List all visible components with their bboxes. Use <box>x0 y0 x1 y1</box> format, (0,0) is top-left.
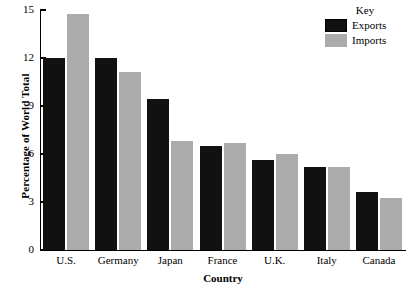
bar-exports-us <box>43 58 65 250</box>
x-axis-tick-label: Canada <box>353 254 405 267</box>
legend: Key ExportsImports <box>325 4 411 47</box>
legend-swatch-exports <box>325 19 347 32</box>
bar-imports-canada <box>380 198 402 250</box>
bar-exports-germany <box>95 58 117 250</box>
bar-exports-italy <box>304 167 326 250</box>
bar-imports-italy <box>328 167 350 250</box>
bar-imports-japan <box>171 141 193 250</box>
y-axis-tick-label: 12 <box>6 52 34 63</box>
bar-exports-france <box>200 146 222 250</box>
legend-label: Exports <box>352 19 386 32</box>
bar-imports-us <box>67 14 89 250</box>
y-axis-tick-label: 6 <box>6 148 34 159</box>
y-axis-tick-label: 0 <box>6 244 34 255</box>
y-axis-tick-label: 15 <box>6 4 34 15</box>
x-axis-tick-label: U.S. <box>40 254 92 267</box>
x-axis-title: Country <box>40 272 406 284</box>
legend-title: Key <box>329 4 401 17</box>
x-axis-tick-label: France <box>196 254 248 267</box>
legend-entry-imports: Imports <box>325 34 411 47</box>
bar-imports-france <box>224 143 246 250</box>
legend-label: Imports <box>352 34 386 47</box>
y-axis-tick-label: 3 <box>6 196 34 207</box>
x-axis-tick-label: Japan <box>144 254 196 267</box>
legend-entries: ExportsImports <box>325 19 411 47</box>
x-axis-tick-label: Germany <box>92 254 144 267</box>
x-axis-tick-label: U.K. <box>249 254 301 267</box>
bar-imports-germany <box>119 72 141 250</box>
bar-chart: Percentage of World Total 03691215 U.S.G… <box>0 0 414 296</box>
bar-exports-japan <box>147 99 169 250</box>
bar-imports-uk <box>276 154 298 250</box>
x-axis-tick-label: Italy <box>301 254 353 267</box>
legend-entry-exports: Exports <box>325 19 411 32</box>
bar-exports-uk <box>252 160 274 250</box>
bar-exports-canada <box>356 192 378 250</box>
y-axis-tick-label: 9 <box>6 100 34 111</box>
legend-swatch-imports <box>325 34 347 47</box>
